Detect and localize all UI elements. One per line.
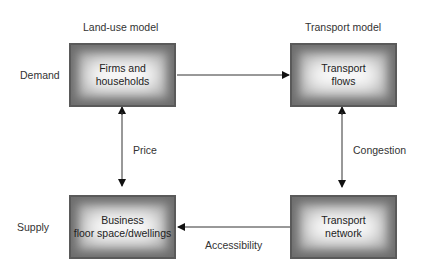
header-land-use-model: Land-use model — [83, 21, 158, 33]
box-business-floorspace: Business floor space/dwellings — [69, 195, 176, 259]
box-transport-flows: Transport flows — [290, 43, 397, 107]
link-label-congestion: Congestion — [353, 144, 406, 156]
link-label-price: Price — [133, 144, 157, 156]
box-transport-network: Transport network — [290, 195, 397, 259]
link-label-accessibility: Accessibility — [205, 239, 262, 251]
box-business-floorspace-label: Business floor space/dwellings — [74, 214, 171, 240]
row-label-supply: Supply — [17, 221, 49, 233]
box-firms-households: Firms and households — [69, 43, 176, 107]
box-firms-households-label: Firms and households — [96, 62, 150, 88]
row-label-demand: Demand — [20, 69, 60, 81]
box-transport-flows-label: Transport flows — [321, 62, 366, 88]
header-transport-model: Transport model — [305, 21, 381, 33]
box-transport-network-label: Transport network — [321, 214, 366, 240]
